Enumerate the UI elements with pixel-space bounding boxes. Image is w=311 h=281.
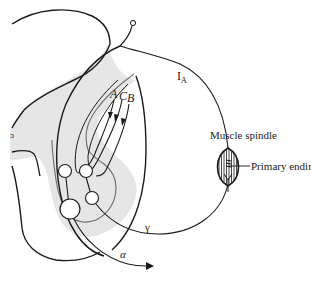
- muscle-spindle: [218, 146, 239, 188]
- alpha-arrowhead: [146, 262, 154, 270]
- alpha-label: α: [120, 248, 126, 260]
- ia-fiber-terminal: [130, 20, 135, 25]
- interneuron-right: [80, 165, 93, 178]
- ia-label: IA: [177, 69, 187, 85]
- pathway-a-label: A: [109, 87, 118, 101]
- interneuron-left: [59, 165, 72, 178]
- pathway-b-label: B: [127, 91, 135, 105]
- muscle-spindle-label: Muscle spindle: [210, 129, 277, 141]
- left-edge-mark: ɔ: [10, 130, 14, 140]
- gamma-label: γ: [144, 221, 150, 233]
- primary-ending-label: Primary ending: [251, 160, 311, 172]
- reflex-diagram: IA A C B Muscle spindle Primary ending γ…: [0, 0, 311, 281]
- gamma-motor-neuron: [86, 192, 99, 205]
- alpha-motor-neuron: [60, 199, 80, 219]
